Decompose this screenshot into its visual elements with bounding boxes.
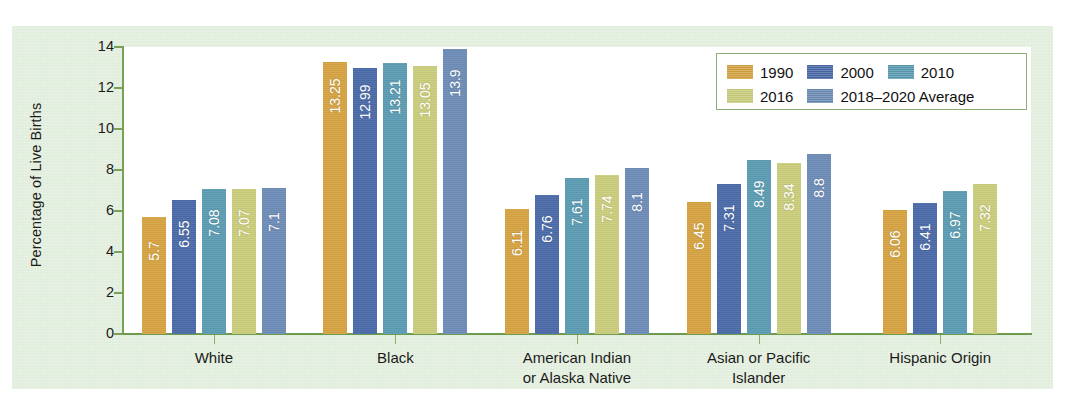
- x-tick: [940, 335, 941, 344]
- bar: 8.8: [807, 154, 831, 334]
- category-label: Black: [305, 348, 487, 368]
- bar-value-label: 7.31: [721, 205, 737, 232]
- legend-swatch-icon: [807, 89, 833, 103]
- y-tick-label: 0: [74, 325, 114, 341]
- legend-row: 20162018–2020 Average: [727, 84, 1018, 108]
- legend-item[interactable]: 2016: [727, 88, 793, 105]
- bar: 8.49: [747, 160, 771, 334]
- legend-row: 199020002010: [727, 60, 1018, 84]
- bar-value-label: 13.05: [417, 83, 433, 118]
- x-tick: [395, 335, 396, 344]
- y-tick-label: 12: [74, 79, 114, 95]
- y-tick: [114, 292, 123, 294]
- bar: 7.32: [973, 184, 997, 334]
- y-tick-label: 8: [74, 161, 114, 177]
- bar: 7.07: [232, 189, 256, 334]
- chart-legend: 19902000201020162018–2020 Average: [716, 53, 1027, 110]
- y-axis-title: Percentage of Live Births: [24, 40, 48, 330]
- bar-value-label: 7.74: [599, 196, 615, 223]
- bar-texture: [142, 217, 166, 334]
- x-tick: [759, 335, 760, 344]
- bar-value-label: 7.07: [236, 209, 252, 236]
- bar-texture: [883, 210, 907, 334]
- legend-item[interactable]: 2000: [807, 64, 873, 81]
- bar-value-label: 7.1: [266, 213, 282, 232]
- legend-item[interactable]: 2018–2020 Average: [807, 88, 974, 105]
- bar: 6.45: [687, 202, 711, 334]
- bar-value-label: 6.41: [917, 223, 933, 250]
- legend-item[interactable]: 2010: [888, 64, 954, 81]
- bar-texture: [505, 209, 529, 334]
- bar-value-label: 6.55: [176, 220, 192, 247]
- bar: 13.21: [383, 63, 407, 334]
- y-tick-label: 6: [74, 202, 114, 218]
- bar-value-label: 8.1: [629, 192, 645, 211]
- category-label-line: American Indian: [486, 348, 668, 368]
- legend-swatch-icon: [807, 65, 833, 79]
- bar-value-label: 6.97: [947, 211, 963, 238]
- legend-item[interactable]: 1990: [727, 64, 793, 81]
- legend-label: 2016: [760, 88, 793, 105]
- bar: 8.34: [777, 163, 801, 334]
- bar-value-label: 6.11: [509, 230, 525, 256]
- y-tick-label: 10: [74, 120, 114, 136]
- bar-value-label: 13.9: [447, 69, 463, 96]
- bar: 7.1: [262, 188, 286, 334]
- y-tick: [114, 210, 123, 212]
- bar-value-label: 7.32: [977, 204, 993, 231]
- category-label-line: Asian or Pacific: [668, 348, 850, 368]
- bar-value-label: 7.61: [569, 198, 585, 225]
- category-label: American Indianor Alaska Native: [486, 348, 668, 388]
- bar: 13.9: [443, 49, 467, 334]
- x-tick: [577, 335, 578, 344]
- bar: 13.25: [323, 62, 347, 334]
- legend-label: 2018–2020 Average: [840, 88, 974, 105]
- bar-value-label: 13.21: [387, 80, 403, 115]
- category-label: Hispanic Origin: [849, 348, 1031, 368]
- legend-label: 2000: [840, 64, 873, 81]
- y-tick-label: 14: [74, 38, 114, 54]
- bar: 8.1: [625, 168, 649, 334]
- bar-value-label: 8.34: [781, 183, 797, 210]
- bar: 6.55: [172, 200, 196, 334]
- bar-value-label: 8.49: [751, 180, 767, 207]
- bar: 6.76: [535, 195, 559, 334]
- bar-texture: [913, 203, 937, 334]
- y-tick: [114, 333, 123, 335]
- bar: 6.97: [943, 191, 967, 334]
- bar-value-label: 13.25: [327, 79, 343, 114]
- bar: 7.74: [595, 175, 619, 334]
- bar: 6.06: [883, 210, 907, 334]
- category-label-line: Black: [305, 348, 487, 368]
- y-tick-label: 2: [74, 284, 114, 300]
- bar-value-label: 5.7: [146, 241, 162, 260]
- bar: 6.41: [913, 203, 937, 334]
- y-tick: [114, 46, 123, 48]
- bar: 12.99: [353, 68, 377, 334]
- bar: 7.61: [565, 178, 589, 334]
- bar-value-label: 12.99: [357, 84, 373, 119]
- bar: 13.05: [413, 66, 437, 334]
- y-tick: [114, 87, 123, 89]
- bar-value-label: 8.8: [811, 178, 827, 197]
- legend-swatch-icon: [727, 89, 753, 103]
- y-tick: [114, 251, 123, 253]
- legend-label: 2010: [921, 64, 954, 81]
- category-label-line: or Alaska Native: [486, 368, 668, 388]
- bar-texture: [262, 188, 286, 334]
- bar: 7.08: [202, 189, 226, 334]
- category-label: Asian or PacificIslander: [668, 348, 850, 388]
- x-tick: [214, 335, 215, 344]
- bar-value-label: 6.45: [691, 222, 707, 249]
- chart-figure: Percentage of Live Births 02468101214 Wh…: [0, 0, 1079, 419]
- bar: 7.31: [717, 184, 741, 334]
- bar-value-label: 7.08: [206, 209, 222, 236]
- category-label-line: White: [123, 348, 305, 368]
- category-label: White: [123, 348, 305, 368]
- legend-label: 1990: [760, 64, 793, 81]
- category-label-line: Islander: [668, 368, 850, 388]
- bar: 6.11: [505, 209, 529, 334]
- category-label-line: Hispanic Origin: [849, 348, 1031, 368]
- y-tick: [114, 128, 123, 130]
- legend-swatch-icon: [727, 65, 753, 79]
